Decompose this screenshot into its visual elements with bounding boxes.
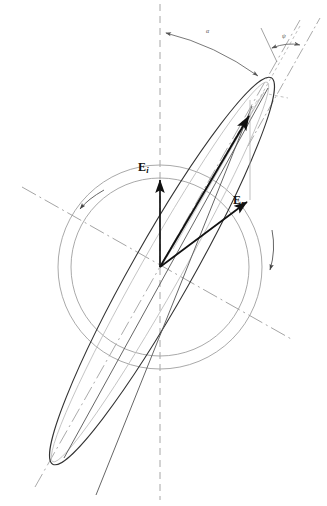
angle-annotations xyxy=(166,28,300,76)
polarization-ellipse-figure xyxy=(0,0,327,506)
label-E-reflected-subscript: r xyxy=(241,198,245,208)
rotation-arrow-outer xyxy=(270,230,274,270)
label-angle-psi: ψ xyxy=(282,33,286,39)
polarization-ellipse xyxy=(27,63,298,479)
alpha-arc xyxy=(166,33,258,76)
label-E-incident-subscript: i xyxy=(146,165,149,175)
field-vectors xyxy=(160,116,249,267)
chord-construction xyxy=(64,88,268,495)
axes-group xyxy=(22,4,320,500)
label-E-reflected: Er xyxy=(233,193,245,208)
label-angle-alpha: α xyxy=(206,28,209,34)
psi-left-leg xyxy=(261,28,277,62)
vector-E-resultant xyxy=(160,116,249,267)
label-E-reflected-base: E xyxy=(233,193,241,207)
label-E-incident-base: E xyxy=(138,160,146,174)
psi-arc xyxy=(272,44,300,48)
label-E-incident: Ei xyxy=(138,160,149,175)
